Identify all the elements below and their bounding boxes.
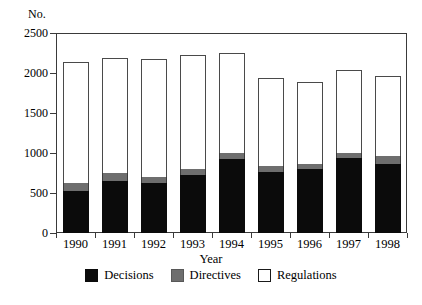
y-axis-tick-value: 500 <box>4 187 48 199</box>
bar-segment-decisions-1993 <box>180 175 206 233</box>
bar-segment-regulations-1996 <box>297 82 323 164</box>
bar-segment-regulations-1998 <box>375 76 401 156</box>
y-axis-tick-label: 500 <box>0 187 48 199</box>
bar-segment-directives-1991 <box>102 173 128 181</box>
y-axis-tick-label: 2000 <box>0 67 48 79</box>
bar-1994 <box>219 53 245 233</box>
y-axis-tick-label: 1000 <box>0 147 48 159</box>
bar-1995 <box>258 78 284 233</box>
x-axis-tick-label-1998: 1998 <box>365 237 411 251</box>
y-axis-tick-value: 1500 <box>4 107 48 119</box>
bar-segment-decisions-1994 <box>219 159 245 233</box>
bar-segment-regulations-1997 <box>336 70 362 153</box>
y-axis-tick-value: 0 <box>4 227 48 239</box>
legend-label-regulations: Regulations <box>277 269 337 282</box>
bar-1996 <box>297 82 323 233</box>
bar-series-group <box>56 33 407 233</box>
bar-segment-decisions-1991 <box>102 181 128 233</box>
y-axis-unit-label: No. <box>28 8 46 20</box>
bar-segment-regulations-1994 <box>219 53 245 153</box>
bar-segment-regulations-1995 <box>258 78 284 166</box>
legend-item-decisions: Decisions <box>85 269 153 282</box>
legend-swatch-directives <box>171 269 184 282</box>
bar-segment-regulations-1993 <box>180 55 206 168</box>
bar-segment-decisions-1995 <box>258 172 284 233</box>
bar-segment-directives-1998 <box>375 156 401 164</box>
legend-label-decisions: Decisions <box>104 269 153 282</box>
legend-swatch-decisions <box>85 269 98 282</box>
bar-segment-decisions-1992 <box>141 183 167 233</box>
bar-segment-regulations-1991 <box>102 58 128 174</box>
bar-segment-decisions-1996 <box>297 169 323 233</box>
bar-segment-decisions-1998 <box>375 164 401 233</box>
bar-segment-regulations-1990 <box>63 62 89 183</box>
bar-segment-decisions-1990 <box>63 191 89 233</box>
bar-segment-directives-1990 <box>63 183 89 192</box>
y-axis-tick-label: 1500 <box>0 107 48 119</box>
y-axis-tick-value: 2000 <box>4 67 48 79</box>
bar-1993 <box>180 55 206 233</box>
bar-1998 <box>375 76 401 233</box>
legend-swatch-regulations <box>258 269 271 282</box>
y-axis-tick-label: 2500 <box>0 27 48 39</box>
legend-item-regulations: Regulations <box>258 269 337 282</box>
bar-segment-regulations-1992 <box>141 59 167 177</box>
chart-legend: DecisionsDirectivesRegulations <box>0 269 422 282</box>
legend-label-directives: Directives <box>190 269 241 282</box>
bar-1990 <box>63 62 89 233</box>
y-axis-tick-value: 1000 <box>4 147 48 159</box>
y-axis-tick-label: 0 <box>0 227 48 239</box>
bar-1991 <box>102 58 128 233</box>
bar-1992 <box>141 59 167 233</box>
bar-segment-directives-1992 <box>141 177 167 184</box>
chart-figure: No. 05001000150020002500 199019911992199… <box>0 0 422 305</box>
y-axis-tick-value: 2500 <box>4 27 48 39</box>
x-axis-title: Year <box>0 252 422 266</box>
bar-1997 <box>336 70 362 233</box>
bar-segment-decisions-1997 <box>336 158 362 233</box>
legend-item-directives: Directives <box>171 269 241 282</box>
